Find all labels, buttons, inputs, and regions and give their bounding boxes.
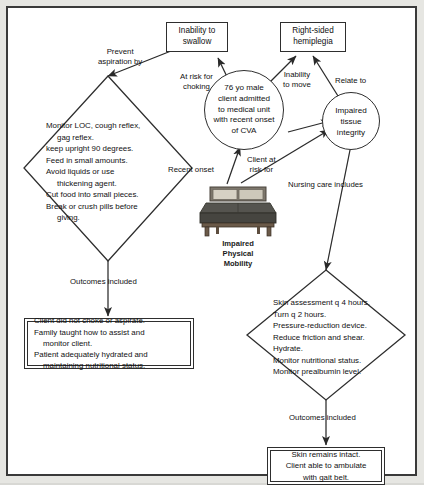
label-relate-to: Relate to [335, 76, 366, 86]
text-line: risk for [247, 165, 276, 175]
text-line: Monitor LOC, cough reflex, [46, 120, 140, 132]
label-at-risk-for-choking: At risk for choking [180, 72, 213, 92]
text-line: gag reflex. [46, 132, 140, 144]
text-line: integrity [335, 127, 367, 138]
text-line: Client did not choke or aspirate. [34, 315, 184, 326]
outcomes-box-aspiration[interactable]: Client did not choke or aspirate. Family… [24, 318, 194, 369]
text-line: with gait belt. [303, 472, 349, 483]
outcomes-box-aspiration-inner: Client did not choke or aspirate. Family… [27, 321, 191, 366]
label-outcomes-included-left: Outcomes included [70, 277, 137, 287]
text-line: client admitted [213, 94, 274, 105]
diagram-canvas: Inability to swallow Right-sided hemiple… [8, 8, 415, 474]
text-line: Relate to [335, 76, 366, 86]
text-line: aspiration by [98, 57, 142, 67]
text-line: Impaired [196, 239, 280, 249]
text-line: Patient adequately hydrated and [34, 349, 184, 360]
text-line: giving. [46, 212, 140, 224]
diamond-prevent-aspiration-text: Monitor LOC, cough reflex, gag reflex. k… [46, 120, 140, 224]
impaired-physical-mobility-figure[interactable]: Impaired Physical Mobility [196, 183, 280, 261]
text-line: Outcomes included [289, 413, 356, 423]
text-line: Nursing care includes [288, 180, 363, 190]
text-line: Client able to ambulate [286, 460, 367, 471]
label-client-at-risk-for: Client at risk for [247, 155, 276, 175]
label-outcomes-included-right: Outcomes included [289, 413, 356, 423]
label-nursing-care-includes: Nursing care includes [288, 180, 363, 190]
hospital-bed-icon [196, 183, 280, 239]
text-line: At risk for [180, 72, 213, 82]
diagram-frame: Inability to swallow Right-sided hemiple… [6, 6, 417, 476]
text-line: thickening agent. [46, 178, 140, 190]
text-line: choking [180, 82, 213, 92]
box-right-sided-hemiplegia[interactable]: Right-sided hemiplegia [280, 22, 346, 52]
text-line: swallow [179, 37, 216, 48]
text-line: monitor client. [34, 338, 184, 349]
text-line: to medical unit [213, 105, 274, 116]
text-line: 76 yo male [213, 83, 274, 94]
text-line: Monitor prealbumin level. [273, 366, 370, 378]
text-line: Cut food into small pieces. [46, 189, 140, 201]
text-line: hemiplegia [292, 37, 333, 48]
text-line: Avoid liquids or use [46, 166, 140, 178]
circle-impaired-tissue-integrity[interactable]: Impaired tissue integrity [322, 92, 380, 150]
diamond-skin-care-text: Skin assessment q 4 hours. Turn q 2 hour… [273, 297, 370, 378]
outcomes-box-skin[interactable]: Skin remains intact. Client able to ambu… [267, 447, 385, 485]
impaired-physical-mobility-caption: Impaired Physical Mobility [196, 239, 280, 269]
text-line: Outcomes included [70, 277, 137, 287]
text-line: to move [283, 80, 311, 90]
outcomes-box-skin-inner: Skin remains intact. Client able to ambu… [270, 450, 382, 482]
text-line: Mobility [196, 259, 280, 269]
text-line: Reduce friction and shear. [273, 332, 370, 344]
text-line: Client at [247, 155, 276, 165]
circle-impaired-tissue-integrity-text: Impaired tissue integrity [335, 105, 367, 138]
text-line: Inability to [179, 26, 216, 37]
circle-patient-profile-text: 76 yo male client admitted to medical un… [213, 83, 274, 137]
text-line: Inability [283, 70, 311, 80]
text-line: Family taught how to assist and [34, 327, 184, 338]
text-line: Skin assessment q 4 hours. [273, 297, 370, 309]
box-inability-to-swallow-text: Inability to swallow [179, 26, 216, 48]
text-line: Feed in small amounts. [46, 155, 140, 167]
box-inability-to-swallow[interactable]: Inability to swallow [166, 22, 228, 52]
text-line: Prevent [98, 47, 142, 57]
text-line: Break or crush pills before [46, 201, 140, 213]
text-line: with recent onset [213, 115, 274, 126]
text-line: maintaining nutritional status. [34, 360, 184, 371]
box-right-sided-hemiplegia-text: Right-sided hemiplegia [292, 26, 333, 48]
label-inability-to-move: Inability to move [283, 70, 311, 90]
text-line: Skin remains intact. [292, 449, 361, 460]
text-line: Physical [196, 249, 280, 259]
text-line: Right-sided [292, 26, 333, 37]
text-line: tissue [335, 116, 367, 127]
text-line: keep upright 90 degrees. [46, 143, 140, 155]
text-line: Hydrate. [273, 343, 370, 355]
circle-patient-profile[interactable]: 76 yo male client admitted to medical un… [204, 70, 284, 150]
text-line: Recent onset [168, 165, 214, 175]
text-line: Turn q 2 hours. [273, 309, 370, 321]
label-recent-onset: Recent onset [168, 165, 214, 175]
text-line: Monitor nutritional status. [273, 355, 370, 367]
text-line: of CVA [213, 126, 274, 137]
text-line: Pressure-reduction device. [273, 320, 370, 332]
text-line: Impaired [335, 105, 367, 116]
label-prevent-aspiration-by: Prevent aspiration by [98, 47, 142, 67]
